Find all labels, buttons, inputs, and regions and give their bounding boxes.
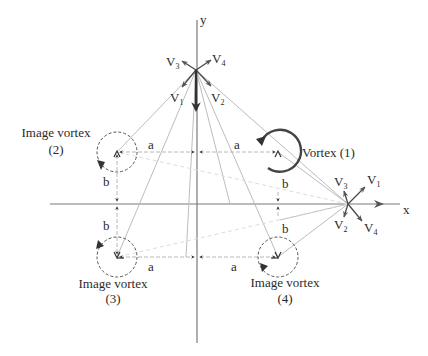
rotation-arrow-icon [256,136,266,146]
dim-b-label: b [103,174,110,189]
image-vortex-3: Image vortex (3) [79,237,148,306]
v2-label: V2 [334,217,347,234]
dim-a-label: a [148,259,154,274]
dim-a-label: a [231,259,237,274]
dim-b-label: b [282,221,289,236]
rays-from-top-point [117,70,348,257]
v4-arrow-icon [348,204,362,221]
image-vortex-3-label: Image vortex [79,276,148,291]
v1-label: V1 [367,172,380,189]
image-vortex-2-number: (2) [48,142,63,157]
rotation-arrow-icon [96,240,104,249]
image-vortex-2: Image vortex (2) [22,125,137,172]
vortex-1-label: Vortex (1) [302,145,355,160]
y-axis-label: y [200,12,207,27]
v1-arrow-icon [182,70,196,87]
dim-b-label: b [282,176,289,191]
dim-b-label: b [103,218,110,233]
image-vortex-4-label: Image vortex [251,275,320,290]
image-vortex-4: Image vortex (4) [251,237,320,306]
v4-label: V4 [364,220,377,237]
v4-arrow-icon [196,60,211,70]
x-axis-label: x [403,202,410,217]
dim-a-label: a [234,137,240,152]
v3-label: V3 [166,54,179,71]
v2-label: V2 [211,90,224,107]
image-vortex-2-label: Image vortex [22,125,91,140]
rotation-arrow-icon [97,160,105,170]
v4-label: V4 [212,51,225,68]
image-vortex-3-number: (3) [105,291,120,306]
v3-label: V3 [334,174,347,191]
dim-a-label: a [148,137,154,152]
image-vortex-4-number: (4) [277,291,292,306]
top-point-vectors: V3 V4 V1 V2 [166,51,225,110]
v1-arrow-icon [348,187,365,204]
image-vortex-diagram: y x a a a a b b b b [0,0,428,356]
v3-arrow-icon [182,61,196,70]
v1-label: V1 [170,90,183,107]
